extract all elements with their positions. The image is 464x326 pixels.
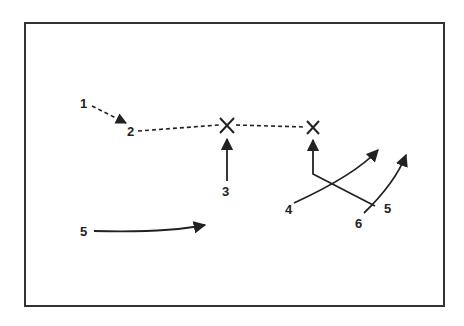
arrow-5-to-x2	[313, 140, 375, 206]
arrow-4-curve	[294, 150, 378, 203]
dashed-arrow-1-to-2	[92, 106, 126, 123]
dashed-line-2-to-x1	[138, 125, 219, 131]
dashed-line-x1-to-x2	[236, 125, 305, 127]
label-1: 1	[80, 96, 87, 111]
play-diagram: 1 2 3 4 5 6 5	[0, 0, 464, 326]
label-5-right: 5	[384, 201, 391, 216]
label-5-left: 5	[80, 224, 87, 239]
diagram-frame	[25, 23, 444, 306]
label-6: 6	[355, 216, 362, 231]
arrow-5-horizontal	[94, 225, 205, 231]
label-4: 4	[285, 202, 293, 217]
x-marker-1	[220, 118, 234, 133]
label-2: 2	[127, 124, 134, 139]
label-3: 3	[222, 184, 229, 199]
x-marker-2	[307, 121, 319, 134]
